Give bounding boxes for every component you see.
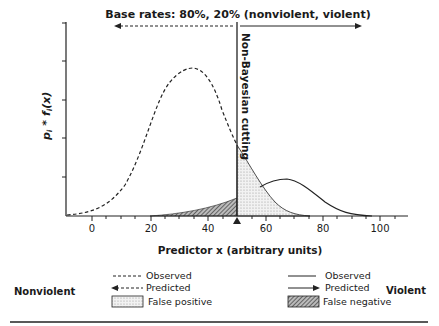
chart: Base rates: 80%, 20% (nonviolent, violen… <box>0 0 439 326</box>
svg-text:Observed: Observed <box>146 270 192 281</box>
x-axis <box>66 216 408 224</box>
legend-nonviolent-label: Nonviolent <box>14 286 76 297</box>
x-tick-40: 40 <box>202 223 215 234</box>
y-axis <box>62 22 66 216</box>
chart-title: Base rates: 80%, 20% (nonviolent, violen… <box>105 8 370 21</box>
x-tick-80: 80 <box>317 223 330 234</box>
legend-violent-label: Violent <box>386 285 426 296</box>
cut-marker-icon <box>233 217 241 224</box>
svg-text:Observed: Observed <box>325 270 371 281</box>
svg-text:False positive: False positive <box>148 296 212 307</box>
svg-text:False negative: False negative <box>323 296 392 307</box>
nonviolent-curve <box>67 68 237 215</box>
false-negative-region <box>150 198 237 216</box>
legend-left: Observed Predicted False positive <box>111 270 212 307</box>
x-tick-100: 100 <box>370 223 389 234</box>
predicted-violent-arrow <box>240 23 362 29</box>
predicted-nonviolent-arrow <box>114 23 235 29</box>
x-tick-60: 60 <box>260 223 273 234</box>
x-tick-0: 0 <box>89 223 95 234</box>
svg-text:Predicted: Predicted <box>146 282 191 293</box>
x-tick-20: 20 <box>145 223 158 234</box>
svg-text:Predicted: Predicted <box>325 282 370 293</box>
y-axis-label: pi*fi(x) <box>40 92 54 141</box>
cut-label: Non-Bayesian cutting <box>240 33 252 160</box>
x-axis-label: Predictor x (arbitrary units) <box>158 244 323 256</box>
legend-right: Observed Predicted False negative <box>288 270 392 307</box>
